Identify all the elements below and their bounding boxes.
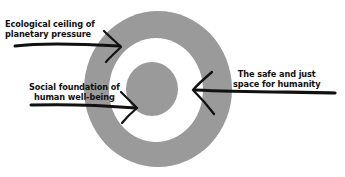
foundation-label: Social foundation of human well-being [29,83,120,102]
safe-space-label-line2: space for humanity [233,80,320,90]
safe-space-label: The safe and just space for humanity [233,70,320,89]
doughnut-diagram: Ecological ceiling of planetary pressure… [0,0,345,177]
ceiling-label-line2: planetary pressure [5,30,95,40]
ceiling-label: Ecological ceiling of planetary pressure [5,20,95,39]
foundation-label-line2: human well-being [29,93,120,103]
